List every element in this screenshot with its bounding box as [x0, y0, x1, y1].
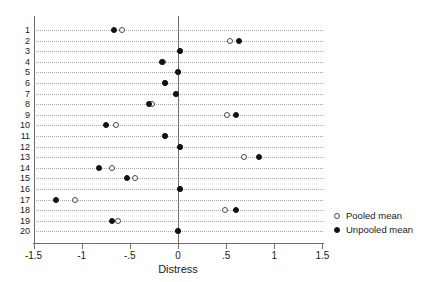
- x-axis-tick: [130, 244, 131, 249]
- data-point-unpooled-mean: [233, 112, 239, 118]
- y-axis-line: [34, 16, 35, 244]
- y-axis-tick-label: 1: [4, 26, 30, 35]
- y-axis-tick-labels: 1234567891011121314151617181920: [0, 0, 30, 282]
- open-circle-icon: [334, 213, 340, 219]
- data-point-unpooled-mean: [173, 91, 179, 97]
- y-axis-tick-label: 17: [4, 196, 30, 205]
- y-axis-tick-label: 12: [4, 143, 30, 152]
- data-point-pooled-mean: [72, 197, 78, 203]
- y-axis-tick-label: 14: [4, 164, 30, 173]
- x-axis-title: Distress: [0, 263, 356, 275]
- x-axis-tick-label: 0: [158, 250, 198, 261]
- data-point-pooled-mean: [109, 165, 115, 171]
- data-point-pooled-mean: [224, 112, 230, 118]
- data-point-unpooled-mean: [159, 59, 165, 65]
- y-axis-tick-label: 13: [4, 153, 30, 162]
- x-axis-tick-label: -1.5: [14, 250, 54, 261]
- y-axis-tick-label: 9: [4, 111, 30, 120]
- data-point-unpooled-mean: [177, 144, 183, 150]
- x-axis-tick: [322, 244, 323, 249]
- x-axis-tick-label: .5: [206, 250, 246, 261]
- y-axis-tick-label: 19: [4, 217, 30, 226]
- x-axis-tick-label: 1.5: [302, 250, 342, 261]
- x-axis-tick: [82, 244, 83, 249]
- data-point-unpooled-mean: [233, 207, 239, 213]
- y-axis-tick-label: 18: [4, 206, 30, 215]
- chart-legend: Pooled mean Unpooled mean: [334, 209, 434, 237]
- y-axis-tick-label: 7: [4, 90, 30, 99]
- y-axis-tick-label: 11: [4, 132, 30, 141]
- x-axis-tick: [274, 244, 275, 249]
- data-point-pooled-mean: [227, 38, 233, 44]
- y-axis-tick-label: 8: [4, 100, 30, 109]
- data-point-unpooled-mean: [177, 186, 183, 192]
- x-axis-tick: [178, 244, 179, 249]
- data-point-unpooled-mean: [96, 165, 102, 171]
- x-axis-tick-label: -.5: [110, 250, 150, 261]
- legend-item-unpooled-mean: Unpooled mean: [334, 223, 434, 237]
- y-axis-tick-label: 10: [4, 121, 30, 130]
- scatter-chart-figure: 1234567891011121314151617181920 -1.5-1-.…: [0, 0, 436, 282]
- x-axis-tick-label: 1: [254, 250, 294, 261]
- filled-circle-icon: [334, 227, 340, 233]
- y-axis-tick-label: 3: [4, 47, 30, 56]
- x-axis-tick-label: -1: [62, 250, 102, 261]
- y-axis-tick-label: 5: [4, 68, 30, 77]
- x-axis-tick: [226, 244, 227, 249]
- data-point-unpooled-mean: [109, 218, 115, 224]
- y-axis-tick-label: 4: [4, 58, 30, 67]
- y-axis-tick-label: 2: [4, 37, 30, 46]
- y-axis-tick-label: 16: [4, 185, 30, 194]
- legend-label-pooled-mean: Pooled mean: [346, 211, 402, 221]
- legend-item-pooled-mean: Pooled mean: [334, 209, 434, 223]
- y-axis-tick-label: 6: [4, 79, 30, 88]
- legend-label-unpooled-mean: Unpooled mean: [346, 225, 413, 235]
- y-axis-tick-label: 20: [4, 227, 30, 236]
- data-point-unpooled-mean: [53, 197, 59, 203]
- data-point-unpooled-mean: [236, 38, 242, 44]
- x-axis-tick: [34, 244, 35, 249]
- data-point-unpooled-mean: [162, 80, 168, 86]
- y-axis-tick-label: 15: [4, 174, 30, 183]
